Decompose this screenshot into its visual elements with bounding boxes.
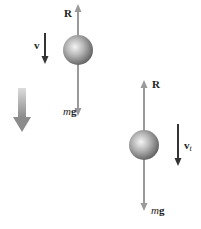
ball-1-group: R v mg — [34, 4, 93, 117]
ball-2 — [129, 130, 159, 160]
down-arrow-icon — [13, 88, 31, 132]
velocity-arrow-2 — [175, 124, 182, 166]
resistance-label-1: R — [64, 7, 73, 19]
resistance-arrow-2 — [141, 80, 148, 131]
resistance-arrow-1 — [75, 4, 82, 36]
weight-arrow-2 — [141, 159, 148, 211]
resistance-label-2: R — [152, 78, 161, 90]
weight-label-2: mg — [151, 204, 165, 216]
free-fall-diagram: R v mg R vt mg — [0, 0, 201, 229]
velocity-label-1: v — [34, 39, 40, 51]
ball-2-group: R vt mg — [129, 78, 193, 216]
weight-label-1: mg — [63, 105, 77, 117]
ball-1 — [63, 35, 93, 65]
velocity-label-2: vt — [184, 139, 193, 153]
velocity-arrow-1 — [42, 33, 49, 64]
